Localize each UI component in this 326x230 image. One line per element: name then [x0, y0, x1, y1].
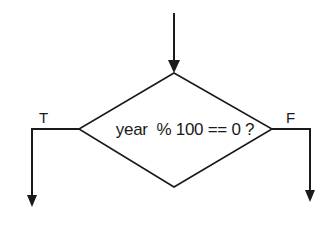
- incoming-arrow: [168, 13, 180, 73]
- decision-condition-text: year % 100 == 0 ?: [104, 121, 266, 138]
- false-branch-label: F: [286, 110, 295, 125]
- flowchart-svg: [0, 0, 326, 230]
- true-branch-label: T: [39, 110, 48, 125]
- flowchart-canvas: year % 100 == 0 ? T F: [0, 0, 326, 230]
- false-branch-arrow: [272, 129, 315, 202]
- true-branch-arrow: [27, 129, 79, 207]
